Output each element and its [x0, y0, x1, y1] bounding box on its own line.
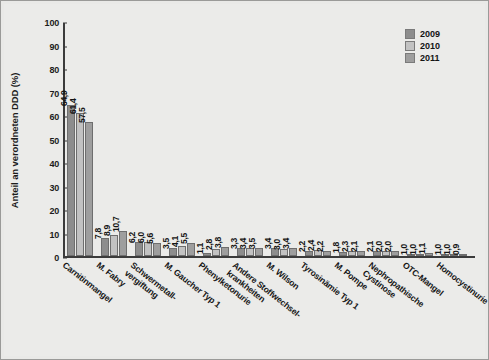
bar[interactable]: 2,2	[323, 251, 331, 256]
bar[interactable]: 8,9	[110, 235, 118, 256]
legend-label: 2010	[420, 41, 440, 51]
bar-value-label: 2,2	[315, 241, 325, 252]
bar-group: 3,54,15,5	[167, 23, 201, 256]
bar-value-label: 5,5	[179, 233, 189, 244]
y-tick-label: 60	[37, 112, 59, 122]
legend-swatch	[405, 41, 415, 51]
bar-group: 64,961,457,5	[65, 23, 99, 256]
bar[interactable]: 1,0	[416, 254, 424, 256]
bar[interactable]: 61,4	[76, 113, 84, 256]
bar[interactable]: 2,2	[305, 251, 313, 256]
bar-group: 2,12,02,0	[371, 23, 405, 256]
y-tick-label: 90	[37, 42, 59, 52]
bar-group: 3,33,43,5	[235, 23, 269, 256]
bar[interactable]: 2,0	[391, 251, 399, 256]
bar[interactable]: 3,4	[289, 248, 297, 256]
bar[interactable]: 3,5	[169, 248, 177, 256]
y-tick-label: 20	[37, 206, 59, 216]
legend-swatch	[405, 29, 415, 39]
legend-label: 2009	[420, 29, 440, 39]
y-axis-title: Anteil an verordneten DDD (%)	[9, 23, 23, 258]
bar-group: 7,88,910,7	[99, 23, 133, 256]
bar[interactable]: 64,9	[67, 105, 75, 256]
bar-group: 1,01,00,9	[439, 23, 473, 256]
bar[interactable]: 2,8	[212, 249, 220, 256]
x-category-label: Tyrosinämie Typ 1	[299, 260, 361, 311]
bar-value-label: 0,9	[451, 244, 461, 255]
bar[interactable]: 10,7	[119, 231, 127, 256]
bar[interactable]: 1,1	[203, 253, 211, 256]
bar-group: 1,82,32,1	[337, 23, 371, 256]
y-tick-mark	[63, 258, 67, 259]
bar[interactable]: 1,1	[425, 253, 433, 256]
legend-item[interactable]: 2011	[405, 53, 440, 63]
bar-group: 1,12,83,8	[201, 23, 235, 256]
bar[interactable]: 5,6	[153, 243, 161, 256]
bar[interactable]: 3,8	[221, 247, 229, 256]
y-tick-label: 30	[37, 183, 59, 193]
legend-item[interactable]: 2009	[405, 29, 440, 39]
bar[interactable]: 5,5	[187, 243, 195, 256]
bar[interactable]: 4,1	[178, 246, 186, 256]
bar[interactable]: 3,3	[237, 248, 245, 256]
bar[interactable]: 6,0	[144, 242, 152, 256]
bar-value-label: 57,5	[77, 108, 87, 123]
bar-value-label: 10,7	[111, 217, 121, 232]
y-tick-label: 100	[37, 18, 59, 28]
bar-group: 6,26,05,6	[133, 23, 167, 256]
x-axis-category-labels: CarnitinmangelM. FabrySchwermetall- verg…	[63, 260, 475, 356]
bar[interactable]: 2,1	[357, 251, 365, 256]
bar[interactable]: 2,0	[382, 251, 390, 256]
y-tick-label: 70	[37, 89, 59, 99]
bar-value-label: 2,1	[349, 241, 359, 252]
bar[interactable]: 57,5	[85, 122, 93, 256]
legend-item[interactable]: 2010	[405, 41, 440, 51]
bar-value-label: 3,5	[247, 238, 257, 249]
bar-group: 2,22,42,2	[303, 23, 337, 256]
bar[interactable]: 3,5	[255, 248, 263, 256]
chart-figure: Anteil an verordneten DDD (%) 0102030405…	[0, 0, 489, 360]
x-axis-line	[63, 256, 475, 258]
y-tick-label: 40	[37, 159, 59, 169]
bar-value-label: 3,8	[213, 237, 223, 248]
bar[interactable]: 0,9	[459, 254, 467, 256]
y-tick-label: 80	[37, 65, 59, 75]
legend-swatch	[405, 53, 415, 63]
y-tick-label: 0	[37, 253, 59, 263]
bar-value-label: 1,1	[417, 244, 427, 255]
bar[interactable]: 1,8	[339, 252, 347, 256]
y-tick-label: 10	[37, 230, 59, 240]
bar-group: 3,43,03,4	[269, 23, 303, 256]
bar[interactable]: 3,0	[280, 249, 288, 256]
bar-value-label: 5,6	[145, 233, 155, 244]
bar-value-label: 3,4	[281, 238, 291, 249]
y-tick-label: 50	[37, 136, 59, 146]
bar[interactable]: 3,4	[246, 248, 254, 256]
legend-label: 2011	[420, 53, 440, 63]
bar[interactable]: 6,2	[135, 242, 143, 256]
bar-value-label: 2,0	[383, 241, 393, 252]
chart-legend: 200920102011	[405, 29, 440, 63]
bar[interactable]: 7,8	[101, 238, 109, 256]
